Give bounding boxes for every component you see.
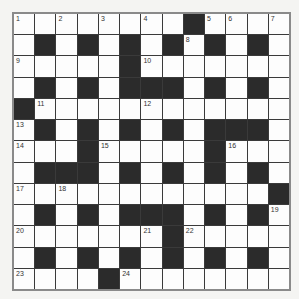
crossword-cell[interactable] [141,35,161,55]
crossword-cell[interactable]: 18 [56,184,76,204]
crossword-cell[interactable] [120,226,140,246]
crossword-cell[interactable] [78,56,98,76]
crossword-cell[interactable] [35,14,55,34]
crossword-cell[interactable] [163,184,183,204]
crossword-cell[interactable] [248,226,268,246]
crossword-cell[interactable] [35,184,55,204]
crossword-cell[interactable] [99,56,119,76]
crossword-cell[interactable] [56,99,76,119]
crossword-cell[interactable]: 3 [99,14,119,34]
crossword-cell[interactable] [226,184,246,204]
crossword-cell[interactable]: 14 [14,141,34,161]
crossword-cell[interactable] [248,14,268,34]
crossword-cell[interactable] [14,205,34,225]
crossword-cell[interactable] [14,163,34,183]
crossword-cell[interactable] [184,78,204,98]
crossword-cell[interactable]: 13 [14,120,34,140]
crossword-cell[interactable] [269,78,289,98]
crossword-cell[interactable] [14,78,34,98]
crossword-cell[interactable] [269,99,289,119]
crossword-cell[interactable] [56,35,76,55]
crossword-cell[interactable] [269,248,289,268]
crossword-cell[interactable] [248,141,268,161]
crossword-cell[interactable] [163,99,183,119]
crossword-cell[interactable] [269,269,289,289]
crossword-cell[interactable]: 8 [184,35,204,55]
crossword-cell[interactable] [120,14,140,34]
crossword-cell[interactable]: 12 [141,99,161,119]
crossword-cell[interactable] [163,269,183,289]
crossword-cell[interactable] [141,141,161,161]
crossword-cell[interactable] [35,226,55,246]
crossword-cell[interactable] [78,184,98,204]
crossword-cell[interactable] [226,226,246,246]
crossword-cell[interactable] [184,99,204,119]
crossword-cell[interactable] [163,141,183,161]
crossword-cell[interactable] [99,205,119,225]
crossword-cell[interactable]: 17 [14,184,34,204]
crossword-cell[interactable] [78,226,98,246]
crossword-cell[interactable]: 7 [269,14,289,34]
crossword-cell[interactable] [248,184,268,204]
crossword-cell[interactable]: 9 [14,56,34,76]
crossword-cell[interactable] [99,248,119,268]
crossword-cell[interactable]: 16 [226,141,246,161]
crossword-cell[interactable] [99,78,119,98]
crossword-cell[interactable] [269,226,289,246]
crossword-cell[interactable] [269,56,289,76]
crossword-cell[interactable] [226,248,246,268]
crossword-cell[interactable] [56,78,76,98]
crossword-cell[interactable] [141,120,161,140]
crossword-cell[interactable]: 20 [14,226,34,246]
crossword-cell[interactable] [78,14,98,34]
crossword-cell[interactable] [269,35,289,55]
crossword-cell[interactable] [184,269,204,289]
crossword-cell[interactable]: 15 [99,141,119,161]
crossword-cell[interactable] [226,35,246,55]
crossword-cell[interactable] [120,184,140,204]
crossword-cell[interactable] [141,184,161,204]
crossword-cell[interactable] [184,184,204,204]
crossword-cell[interactable] [226,269,246,289]
crossword-cell[interactable]: 5 [205,14,225,34]
crossword-cell[interactable] [56,141,76,161]
crossword-cell[interactable] [35,141,55,161]
crossword-cell[interactable] [163,14,183,34]
crossword-cell[interactable] [226,78,246,98]
crossword-cell[interactable] [141,269,161,289]
crossword-cell[interactable] [99,35,119,55]
crossword-cell[interactable] [56,226,76,246]
crossword-cell[interactable] [205,226,225,246]
crossword-cell[interactable]: 10 [141,56,161,76]
crossword-cell[interactable] [120,141,140,161]
crossword-cell[interactable] [56,56,76,76]
crossword-cell[interactable] [99,163,119,183]
crossword-cell[interactable]: 22 [184,226,204,246]
crossword-cell[interactable] [78,269,98,289]
crossword-cell[interactable] [78,99,98,119]
crossword-cell[interactable] [226,205,246,225]
crossword-cell[interactable]: 19 [269,205,289,225]
crossword-cell[interactable]: 11 [35,99,55,119]
crossword-cell[interactable] [99,120,119,140]
crossword-cell[interactable] [56,120,76,140]
crossword-cell[interactable] [226,163,246,183]
crossword-cell[interactable] [35,269,55,289]
crossword-cell[interactable] [226,56,246,76]
crossword-cell[interactable] [205,99,225,119]
crossword-cell[interactable] [248,99,268,119]
crossword-cell[interactable] [120,99,140,119]
crossword-cell[interactable] [14,248,34,268]
crossword-cell[interactable] [99,226,119,246]
crossword-cell[interactable] [248,269,268,289]
crossword-cell[interactable] [56,205,76,225]
crossword-cell[interactable] [184,248,204,268]
crossword-cell[interactable] [184,120,204,140]
crossword-cell[interactable] [269,120,289,140]
crossword-cell[interactable] [248,56,268,76]
crossword-cell[interactable] [184,141,204,161]
crossword-cell[interactable] [205,269,225,289]
crossword-cell[interactable] [226,99,246,119]
crossword-cell[interactable]: 1 [14,14,34,34]
crossword-cell[interactable] [269,163,289,183]
